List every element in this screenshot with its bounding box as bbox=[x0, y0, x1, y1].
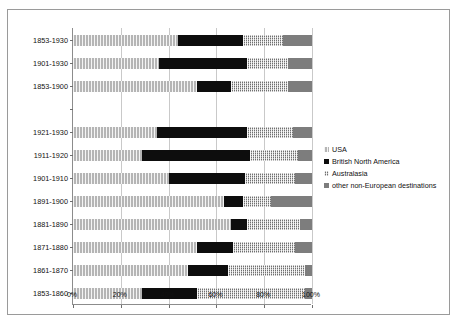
x-tick bbox=[264, 305, 265, 308]
bar-segment bbox=[243, 196, 272, 207]
bar-row bbox=[73, 58, 311, 69]
x-tick-label: 40% bbox=[148, 291, 188, 298]
bar-segment bbox=[159, 58, 247, 69]
bar-segment bbox=[142, 150, 250, 161]
bar-row bbox=[73, 127, 311, 138]
legend-item: other non-European destinations bbox=[324, 180, 456, 191]
bar-row bbox=[73, 35, 311, 46]
gridline bbox=[216, 28, 217, 304]
x-tick-label: 100% bbox=[291, 291, 331, 298]
category-label: 1871-1880 bbox=[33, 243, 68, 252]
legend-label: British North America bbox=[332, 157, 400, 166]
category-label: 1901-1910 bbox=[33, 174, 68, 183]
bar-segment bbox=[250, 150, 298, 161]
bar-segment bbox=[157, 127, 248, 138]
x-tick bbox=[121, 305, 122, 308]
gridline bbox=[264, 28, 265, 304]
bar-segment bbox=[73, 173, 169, 184]
bar-segment bbox=[298, 150, 312, 161]
category-label: 1853-1930 bbox=[33, 36, 68, 45]
bar-segment bbox=[197, 242, 233, 253]
chart-legend: USABritish North AmericaAustralasiaother… bbox=[324, 144, 456, 192]
gridline bbox=[169, 28, 170, 304]
bar-segment bbox=[288, 58, 312, 69]
x-tick bbox=[216, 305, 217, 308]
legend-swatch-icon bbox=[324, 147, 329, 152]
bar-segment bbox=[243, 35, 284, 46]
legend-item: British North America bbox=[324, 156, 456, 167]
bar-row bbox=[73, 150, 311, 161]
x-tick-label: 0% bbox=[52, 291, 92, 298]
category-label: 1881-1890 bbox=[33, 220, 68, 229]
bar-segment bbox=[233, 242, 295, 253]
bar-segment bbox=[73, 265, 188, 276]
bar-segment bbox=[73, 219, 231, 230]
x-tick bbox=[169, 305, 170, 308]
bar-segment bbox=[295, 173, 312, 184]
bar-segment bbox=[300, 219, 312, 230]
bar-row bbox=[73, 242, 311, 253]
bar-row bbox=[73, 265, 311, 276]
bar-segment bbox=[224, 196, 243, 207]
legend-swatch-icon bbox=[324, 171, 329, 176]
bar-segment bbox=[247, 58, 288, 69]
category-label: 1853-1900 bbox=[33, 82, 68, 91]
bar-segment bbox=[169, 173, 245, 184]
bar-segment bbox=[231, 81, 288, 92]
bar-segment bbox=[73, 127, 157, 138]
bar-row bbox=[73, 81, 311, 92]
legend-label: Australasia bbox=[332, 169, 368, 178]
bar-segment bbox=[245, 173, 295, 184]
legend-swatch-icon bbox=[324, 159, 329, 164]
legend-label: other non-European destinations bbox=[332, 181, 436, 190]
bar-segment bbox=[231, 219, 248, 230]
bar-segment bbox=[228, 265, 304, 276]
x-tick-label: 60% bbox=[195, 291, 235, 298]
legend-swatch-icon bbox=[324, 183, 329, 188]
category-label: 1861-1870 bbox=[33, 266, 68, 275]
bar-segment bbox=[73, 242, 197, 253]
legend-item: USA bbox=[324, 144, 456, 155]
category-label: 1921-1930 bbox=[33, 128, 68, 137]
bar-segment bbox=[178, 35, 243, 46]
y-tick bbox=[70, 109, 73, 110]
x-tick-label: 20% bbox=[100, 291, 140, 298]
x-tick bbox=[73, 305, 74, 308]
legend-item: Australasia bbox=[324, 168, 456, 179]
bar-segment bbox=[188, 265, 229, 276]
legend-label: USA bbox=[332, 145, 347, 154]
x-tick-label: 80% bbox=[243, 291, 283, 298]
chart-screenshot: 1853-19301901-19301853-19001921-19301911… bbox=[0, 0, 458, 328]
bar-segment bbox=[293, 127, 312, 138]
gridline bbox=[312, 28, 313, 304]
bar-row bbox=[73, 173, 311, 184]
category-label: 1911-1920 bbox=[34, 151, 68, 160]
bar-segment bbox=[73, 81, 197, 92]
y-axis-category-labels: 1853-19301901-19301853-19001921-19301911… bbox=[8, 28, 68, 305]
x-tick bbox=[312, 305, 313, 308]
bar-segment bbox=[197, 81, 230, 92]
bar-segment bbox=[295, 242, 312, 253]
bar-segment bbox=[247, 127, 292, 138]
bar-row bbox=[73, 196, 311, 207]
bar-segment bbox=[271, 196, 312, 207]
plot-area bbox=[72, 28, 311, 305]
bar-segment bbox=[288, 81, 312, 92]
bar-segment bbox=[247, 219, 300, 230]
bar-row bbox=[73, 219, 311, 230]
bar-segment bbox=[305, 265, 312, 276]
category-label: 1891-1900 bbox=[33, 197, 68, 206]
bar-segment bbox=[73, 58, 159, 69]
bar-segment bbox=[283, 35, 312, 46]
bar-segment bbox=[73, 35, 178, 46]
bar-segment bbox=[73, 196, 224, 207]
chart-frame: 1853-19301901-19301853-19001921-19301911… bbox=[7, 9, 450, 315]
bar-segment bbox=[73, 150, 142, 161]
category-label: 1901-1930 bbox=[33, 59, 68, 68]
gridline bbox=[121, 28, 122, 304]
